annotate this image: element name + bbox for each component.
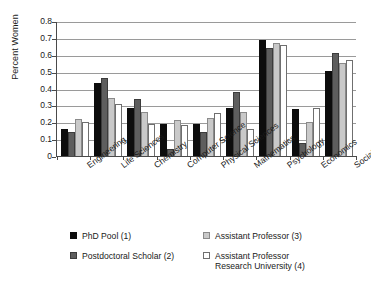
y-tick-label: 0.6 <box>0 51 52 60</box>
legend-item-assistant-professor-research-university: Assistant ProfessorResearch University (… <box>203 251 353 272</box>
x-axis-label: Economics <box>319 162 325 170</box>
legend-label: PhD Pool (1) <box>82 231 131 242</box>
legend-row: Postdoctoral Scholar (2) Assistant Profe… <box>70 251 360 272</box>
x-axis-label: Social Sciences <box>352 162 358 170</box>
legend-label-line1: Assistant Professor <box>215 251 289 261</box>
y-tick-label: 0.4 <box>0 85 52 94</box>
y-tick-label: 0.1 <box>0 135 52 144</box>
y-tick-label: 0 <box>0 152 52 161</box>
x-axis-label: Psychology <box>285 162 291 170</box>
y-tick-label: 0.2 <box>0 118 52 127</box>
legend-label-line2: Research University (4) <box>215 261 305 272</box>
bar <box>94 83 101 156</box>
bar <box>273 43 280 156</box>
bar <box>68 132 75 156</box>
x-axis-label: Computer Science <box>185 162 191 170</box>
bar <box>127 108 134 156</box>
bar <box>292 109 299 156</box>
bar <box>75 119 82 156</box>
x-axis-label: Physical Sciences <box>219 162 225 170</box>
legend-label: Postdoctoral Scholar (2) <box>82 251 174 262</box>
y-tick-label: 0.5 <box>0 68 52 77</box>
chart-legend: PhD Pool (1) Assistant Professor (3) Pos… <box>70 231 360 281</box>
x-axis-label: Chemistry <box>152 162 158 170</box>
legend-label-multiline: Assistant ProfessorResearch University (… <box>215 251 305 272</box>
legend-swatch-icon <box>203 252 210 259</box>
bar <box>266 48 273 156</box>
legend-item-postdoctoral-scholar: Postdoctoral Scholar (2) <box>70 251 203 272</box>
y-tick-label: 0.7 <box>0 34 52 43</box>
x-axis-labels: EngineeringLife SciencesChemistryCompute… <box>56 160 356 222</box>
bar-group <box>58 22 91 156</box>
x-axis-label: Mathematics <box>252 162 258 170</box>
legend-swatch-icon <box>70 232 77 239</box>
legend-row: PhD Pool (1) Assistant Professor (3) <box>70 231 360 242</box>
x-axis-label: Life Sciences <box>119 162 125 170</box>
bar-group <box>323 22 356 156</box>
bar <box>61 129 68 156</box>
legend-item-assistant-professor: Assistant Professor (3) <box>203 231 353 242</box>
bar-chart: Percent Women 0.80.70.60.50.40.30.20.10 … <box>0 0 371 302</box>
plot-area <box>56 22 356 157</box>
legend-swatch-icon <box>203 232 210 239</box>
legend-item-phd-pool: PhD Pool (1) <box>70 231 203 242</box>
x-axis-label: Engineering <box>85 162 91 170</box>
legend-swatch-icon <box>70 252 77 259</box>
bar-groups <box>58 22 356 156</box>
y-tick-label: 0.8 <box>0 17 52 26</box>
bar <box>332 53 339 156</box>
y-tick-mark <box>52 157 56 158</box>
y-tick-label: 0.3 <box>0 101 52 110</box>
legend-label: Assistant Professor (3) <box>215 231 302 242</box>
bar <box>82 122 89 156</box>
